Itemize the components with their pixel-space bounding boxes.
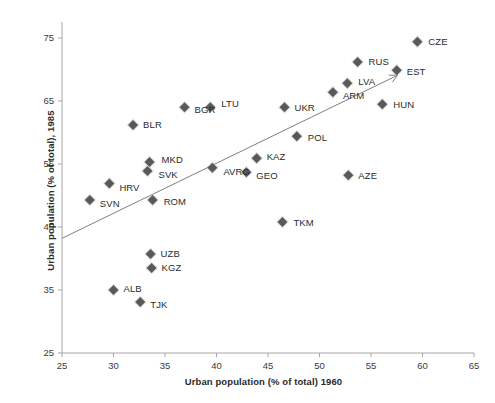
x-tick-label: 40 <box>197 360 237 371</box>
data-point <box>376 98 389 111</box>
point-label: MKD <box>162 154 183 165</box>
data-point <box>143 156 156 169</box>
point-label: RUS <box>369 56 389 67</box>
y-tick-label: 65 <box>14 95 54 106</box>
data-point <box>83 193 96 206</box>
x-tick-label: 25 <box>42 360 82 371</box>
data-point <box>107 284 120 297</box>
x-tick-label: 35 <box>145 360 185 371</box>
y-tick-label: 45 <box>14 221 54 232</box>
y-axis-title: Urban population (% of total), 1985 <box>45 41 56 341</box>
point-label: HRV <box>119 182 139 193</box>
data-point <box>276 215 289 228</box>
marker-diamond <box>142 166 152 176</box>
y-tick-label: 75 <box>14 32 54 43</box>
marker-diamond <box>180 102 190 112</box>
x-tick-label: 45 <box>248 360 288 371</box>
data-point <box>127 118 140 131</box>
x-tick-label: 65 <box>454 360 494 371</box>
plot-area <box>0 0 495 403</box>
point-label: GEO <box>256 170 277 181</box>
data-point <box>146 193 159 206</box>
marker-diamond <box>292 131 302 141</box>
data-point <box>411 35 424 48</box>
point-label: ARM <box>343 90 364 101</box>
y-tick-label: 55 <box>14 158 54 169</box>
point-label: TKM <box>293 217 313 228</box>
point-label: SVN <box>100 198 120 209</box>
marker-diamond <box>377 99 387 109</box>
marker-diamond <box>392 65 402 75</box>
x-tick-label: 50 <box>300 360 340 371</box>
data-point <box>342 169 355 182</box>
data-point <box>341 77 354 90</box>
point-label: CZE <box>428 36 447 47</box>
data-point <box>134 295 147 308</box>
data-point <box>250 152 263 165</box>
marker-diamond <box>109 285 119 295</box>
marker-diamond <box>104 179 114 189</box>
point-label: AZE <box>358 170 377 181</box>
data-point <box>145 261 158 274</box>
data-point <box>178 101 191 114</box>
data-point <box>290 130 303 143</box>
marker-diamond <box>207 163 217 173</box>
marker-diamond <box>353 57 363 67</box>
data-point <box>103 177 116 190</box>
marker-diamond <box>342 78 352 88</box>
marker-diamond <box>85 195 95 205</box>
point-label: SVK <box>158 169 177 180</box>
point-label: ROM <box>164 196 186 207</box>
x-tick-label: 30 <box>94 360 134 371</box>
point-label: UKR <box>294 102 314 113</box>
marker-diamond <box>147 263 157 273</box>
marker-diamond <box>279 102 289 112</box>
point-label: UZB <box>161 248 180 259</box>
point-label: LTU <box>221 98 239 109</box>
marker-diamond <box>135 297 145 307</box>
marker-diamond <box>146 249 156 259</box>
point-label: LVA <box>358 76 375 87</box>
point-label: KGZ <box>162 262 182 273</box>
marker-diamond <box>412 37 422 47</box>
x-tick-label: 55 <box>351 360 391 371</box>
point-label: HUN <box>393 99 414 110</box>
point-label: KAZ <box>267 151 286 162</box>
point-label: ALB <box>124 283 142 294</box>
marker-diamond <box>128 120 138 130</box>
x-axis-title: Urban population (% of total) 1960 <box>0 376 495 387</box>
data-point <box>326 86 339 99</box>
point-label: BLR <box>143 119 162 130</box>
y-tick-label: 25 <box>14 347 54 358</box>
point-label: BGR <box>195 104 216 115</box>
point-label: AVRG <box>223 166 250 177</box>
y-tick-label: 35 <box>14 284 54 295</box>
data-point <box>278 101 291 114</box>
marker-diamond <box>343 170 353 180</box>
marker-diamond <box>328 87 338 97</box>
data-point <box>390 64 403 77</box>
point-label: EST <box>407 66 426 77</box>
tick-marks <box>58 38 474 357</box>
point-label: POL <box>308 132 327 143</box>
scatter-chart: Urban population (% of total) 1960 Urban… <box>0 0 495 403</box>
data-point <box>351 55 364 68</box>
x-tick-label: 60 <box>403 360 443 371</box>
marker-diamond <box>145 157 155 167</box>
data-point <box>144 248 157 261</box>
point-label: TJK <box>150 299 167 310</box>
marker-diamond <box>252 153 262 163</box>
marker-diamond <box>277 217 287 227</box>
